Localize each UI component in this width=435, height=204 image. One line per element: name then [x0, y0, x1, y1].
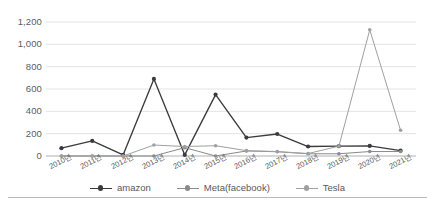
data-point: [337, 144, 341, 148]
data-point: [245, 149, 249, 153]
series-line-meta-facebook-: [61, 148, 400, 156]
data-point: [399, 150, 403, 154]
legend-dot: [98, 185, 104, 191]
y-tick-label: 400: [0, 106, 42, 116]
data-point: [306, 144, 310, 148]
legend-marker-icon: [90, 184, 112, 193]
legend-marker-icon: [177, 184, 199, 193]
legend-dot: [185, 185, 191, 191]
data-point: [368, 144, 372, 148]
chart-legend: amazonMeta(facebook)Tesla: [0, 180, 435, 196]
bottom-divider: [8, 197, 427, 198]
plot-area: 02004006008001,0001,200: [0, 0, 435, 160]
data-point: [368, 28, 372, 32]
data-point: [183, 145, 187, 149]
chart-canvas: [0, 0, 435, 160]
data-point: [90, 139, 94, 143]
legend-dot: [304, 185, 310, 191]
legend-label: Meta(facebook): [204, 183, 270, 193]
y-tick-label: 1,000: [0, 39, 42, 49]
legend-item-meta-facebook-[interactable]: Meta(facebook): [177, 183, 270, 193]
legend-marker-icon: [296, 184, 318, 193]
legend-label: amazon: [117, 183, 151, 193]
data-point: [275, 132, 279, 136]
data-point: [399, 129, 403, 133]
series-line-amazon: [61, 79, 400, 155]
data-point: [275, 150, 279, 154]
line-chart: 02004006008001,0001,200 2010년2011년2012년2…: [0, 0, 435, 204]
legend-item-tesla[interactable]: Tesla: [296, 183, 345, 193]
series-line-tesla: [61, 30, 400, 156]
y-tick-label: 1,200: [0, 17, 42, 27]
legend-item-amazon[interactable]: amazon: [90, 183, 151, 193]
y-tick-label: 800: [0, 62, 42, 72]
data-point: [59, 146, 63, 150]
legend-label: Tesla: [323, 183, 345, 193]
data-point: [152, 143, 156, 147]
data-point: [244, 135, 248, 139]
data-point: [152, 77, 156, 81]
y-tick-label: 600: [0, 84, 42, 94]
y-tick-label: 200: [0, 129, 42, 139]
data-point: [368, 150, 372, 154]
data-point: [214, 144, 218, 148]
data-point: [213, 92, 217, 96]
